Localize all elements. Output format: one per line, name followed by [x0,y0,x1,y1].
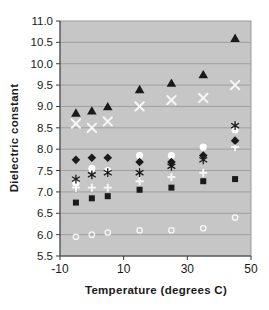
x-tick-label: 50 [244,262,258,276]
y-axis-title: Dielectric constant [8,84,20,193]
y-tick-label: 6.5 [37,207,53,219]
plot-area [60,21,251,256]
black-square-series-point [232,176,238,182]
black-square-series-point [200,178,206,184]
y-tick-label: 10.5 [31,36,53,48]
white-circle-series-point [200,143,207,150]
y-tick-label: 7.0 [37,186,53,198]
black-square-series-point [73,200,79,206]
y-tick-label: 8.5 [37,122,53,134]
x-tick-label: -10 [51,262,69,276]
black-square-series-point [105,193,111,199]
x-tick-label: 30 [181,262,195,276]
black-square-series-point [89,195,95,201]
x-axis-title: Temperature (degrees C) [85,284,227,296]
y-tick-label: 7.5 [37,165,53,177]
y-tick-label: 11.0 [31,15,53,27]
y-tick-label: 9.5 [37,79,53,91]
x-tick-label: 10 [117,262,131,276]
chart-canvas: 5.56.06.57.07.58.08.59.09.510.010.511.0-… [0,0,269,310]
black-square-series-point [137,187,143,193]
y-tick-label: 5.5 [37,250,53,262]
black-square-series-point [168,185,174,191]
y-tick-label: 9.0 [37,100,53,112]
y-tick-label: 6.0 [37,229,53,241]
y-tick-label: 8.0 [37,143,53,155]
scatter-chart-figure: 5.56.06.57.07.58.08.59.09.510.010.511.0-… [0,0,269,310]
y-tick-label: 10.0 [31,58,53,70]
